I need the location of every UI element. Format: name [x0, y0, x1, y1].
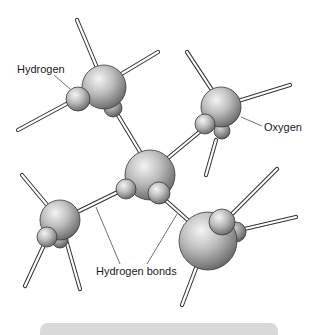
water-molecule-top-left: [66, 65, 126, 117]
oxygen-leader-line: [241, 117, 262, 126]
hydrogen-bond-rod-core: [163, 198, 190, 222]
hydrogen-bond-rod-core: [75, 190, 122, 213]
hydrogen-atom: [195, 114, 215, 134]
hydrogen-atom: [37, 227, 57, 247]
bond-rod-core: [118, 52, 158, 76]
water-molecule-bottom-left: [37, 200, 80, 248]
atoms: [37, 65, 246, 270]
bond-rod-core: [230, 169, 277, 216]
oxygen-label: Oxygen: [264, 121, 302, 133]
water-molecule-top-right: [195, 87, 241, 139]
water-molecule-center: [116, 150, 175, 204]
bond-rod-core: [238, 85, 290, 101]
bond-rod-core: [206, 140, 216, 175]
hydrogen-bonds-leader-line-left: [96, 207, 120, 264]
hydrogen-bond-rod-core: [168, 129, 203, 158]
bond-rod-core: [187, 52, 212, 90]
bond-rod-core: [18, 102, 70, 130]
bond-rod-core: [25, 245, 44, 286]
bond-rod-core: [77, 20, 98, 70]
hydrogen-label: Hydrogen: [17, 63, 65, 75]
bond-rod-core: [22, 175, 48, 206]
hydrogen-atom: [148, 182, 170, 204]
hydrogen-atom: [209, 209, 235, 235]
bond-rod-core: [240, 217, 296, 230]
hydrogen-leader-line: [54, 75, 70, 89]
bottom-caption-bar: [40, 323, 278, 335]
bond-rod-core: [66, 240, 80, 289]
bond-rod-core: [182, 268, 196, 305]
hydrogen-atom: [116, 179, 136, 199]
hydrogen-atom: [66, 87, 90, 111]
hydrogen-bonds-label: Hydrogen bonds: [96, 265, 177, 277]
water-molecule-bottom-right: [179, 209, 246, 270]
hydrogen-bonds-leader-line-right: [147, 214, 177, 264]
